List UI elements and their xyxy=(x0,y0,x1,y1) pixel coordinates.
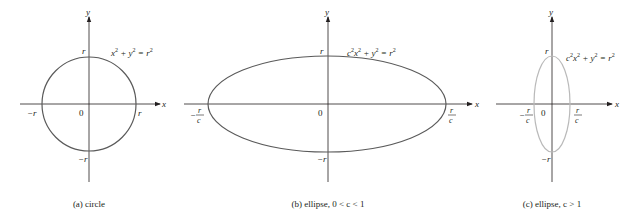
origin-label: 0 xyxy=(79,108,84,118)
svg-text:c: c xyxy=(575,116,579,125)
bottom-label: −r xyxy=(541,154,551,164)
x-axis-label: x xyxy=(474,99,479,109)
right-fraction-label: r c xyxy=(448,106,456,125)
origin-label: 0 xyxy=(318,108,323,118)
caption: (a) circle xyxy=(73,199,105,209)
svg-text:−: − xyxy=(190,110,196,120)
svg-text:r: r xyxy=(576,106,580,115)
svg-text:r: r xyxy=(527,106,531,115)
origin-label: 0 xyxy=(541,108,546,118)
svg-text:c: c xyxy=(526,116,530,125)
left-label: −r xyxy=(27,108,37,118)
right-fraction-label: r c xyxy=(574,106,582,125)
svg-text:r: r xyxy=(198,106,202,115)
left-fraction-label: − r c xyxy=(519,106,533,125)
svg-text:−: − xyxy=(519,110,525,120)
panel-circle: x y 0 r −r −r r x2 + y2 = r2 (a) circle xyxy=(20,7,166,209)
y-axis-label: y xyxy=(548,7,553,17)
y-axis-label: y xyxy=(85,7,90,17)
svg-text:c: c xyxy=(197,116,201,125)
caption: (b) ellipse, 0 < c < 1 xyxy=(292,199,365,209)
top-label: r xyxy=(545,46,549,56)
bottom-label: −r xyxy=(78,154,88,164)
equation: c2x2 + y2 = r2 xyxy=(347,47,396,58)
top-label: r xyxy=(320,46,324,56)
top-label: r xyxy=(82,46,86,56)
left-fraction-label: − r c xyxy=(190,106,204,125)
x-axis-label: x xyxy=(161,99,166,109)
x-axis-label: x xyxy=(614,99,619,109)
right-label: r xyxy=(138,108,142,118)
caption: (c) ellipse, c > 1 xyxy=(523,199,581,209)
svg-text:r: r xyxy=(450,106,454,115)
y-axis-label: y xyxy=(324,7,329,17)
panel-ellipse-tall: x y 0 r −r − r c r c c2x2 + y2 = r2 (c) … xyxy=(496,7,619,209)
svg-text:c: c xyxy=(449,116,453,125)
equation: x2 + y2 = r2 xyxy=(110,47,153,58)
bottom-label: −r xyxy=(317,154,327,164)
conic-diagram: x y 0 r −r −r r x2 + y2 = r2 (a) circle … xyxy=(0,0,640,213)
equation: c2x2 + y2 = r2 xyxy=(566,52,615,63)
panel-ellipse-wide: x y 0 r −r − r c r c c2x2 + y2 = r2 (b) … xyxy=(184,7,479,209)
